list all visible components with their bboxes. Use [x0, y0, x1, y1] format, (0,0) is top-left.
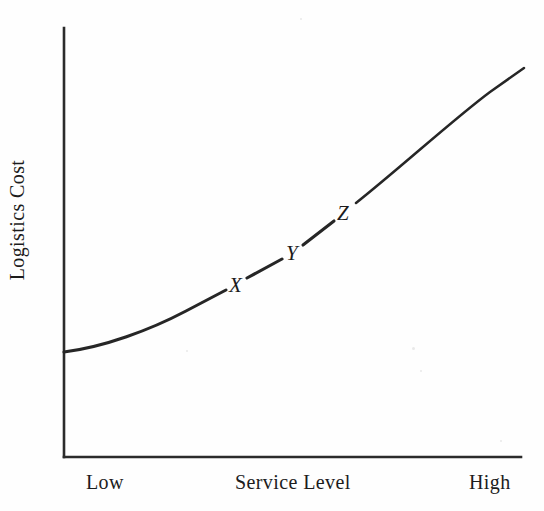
y-axis-label-text: Logistics Cost — [6, 160, 29, 281]
curve-point-label-z: Z — [337, 203, 349, 224]
chart-plot-area — [0, 0, 544, 511]
cost-curve-segment-1 — [64, 290, 226, 352]
logistics-cost-chart-figure: Logistics Cost Low Service Level High X … — [0, 0, 544, 511]
x-axis-tick-high: High — [469, 472, 511, 492]
cost-curve-segment-2 — [247, 259, 282, 278]
x-axis-label: Service Level — [235, 472, 351, 492]
x-axis-tick-low: Low — [86, 472, 124, 492]
cost-curve-segment-4 — [356, 68, 524, 203]
curve-point-label-x: X — [229, 275, 242, 296]
y-axis-label: Logistics Cost — [0, 120, 34, 320]
cost-curve-segment-3 — [303, 221, 334, 245]
curve-point-label-y: Y — [286, 243, 298, 264]
